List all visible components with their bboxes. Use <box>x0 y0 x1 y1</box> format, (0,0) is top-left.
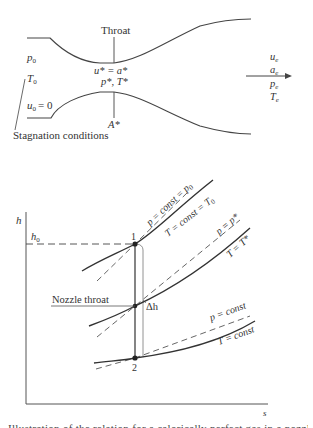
delta-h-label: Δh <box>146 301 159 312</box>
inlet-velocity-label: u0= 0 <box>27 99 53 113</box>
y-axis-label: h <box>16 214 22 226</box>
stagnation-leader-line <box>15 79 25 130</box>
curve-T-const-T0 <box>82 180 213 271</box>
exit-pressure-label: pe <box>269 78 278 91</box>
stagnation-conditions-label: Stagnation conditions <box>13 129 109 141</box>
nozzle-upper-wall <box>27 19 251 63</box>
label-T-const: T = const <box>216 323 256 346</box>
label-p-pstar: p = p* <box>212 211 240 237</box>
arrow-head-icon <box>285 73 292 79</box>
hs-diagram: h s h0 1 2 Nozzle throat Δh p = const = … <box>16 179 268 418</box>
nozzle-diagram: Throat p0 T0 u0= 0 u* = a* p*, T* A* ue … <box>13 19 292 141</box>
throat-label: Throat <box>101 24 130 36</box>
x-axis-label: s <box>263 408 267 418</box>
label-p-const: p = const <box>207 300 247 324</box>
nozzle-throat-label: Nozzle throat <box>52 294 109 305</box>
inlet-temperature-label: T0 <box>27 72 37 86</box>
state-point-1 <box>132 241 137 246</box>
figure-canvas: Throat p0 T0 u0= 0 u* = a* p*, T* A* ue … <box>0 0 313 428</box>
throat-area-label: A* <box>107 119 120 130</box>
h0-label: h0 <box>31 231 40 244</box>
point-2-label: 2 <box>132 362 137 373</box>
exit-velocity-label: ue <box>270 51 278 64</box>
throat-velocity-label: u* = a* <box>94 65 128 76</box>
point-1-label: 1 <box>131 231 136 242</box>
delta-h-bracket <box>137 244 143 356</box>
state-point-2 <box>132 355 137 360</box>
exit-sound-speed-label: ae <box>270 64 278 77</box>
figure-caption: Illustration of the relation for a calor… <box>8 419 308 428</box>
nozzle-lower-wall <box>27 92 251 134</box>
throat-state-label: p*, T* <box>100 76 129 87</box>
exit-temperature-label: Te <box>270 91 279 104</box>
inlet-pressure-label: p0 <box>26 51 37 65</box>
